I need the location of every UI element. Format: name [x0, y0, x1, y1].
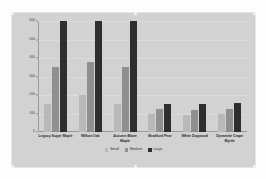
category-label: Dynamite Crape Myrtle: [213, 134, 247, 143]
bar-group: [183, 21, 206, 132]
bar[interactable]: [156, 109, 163, 132]
bar[interactable]: [95, 21, 102, 132]
y-axis-tick-label: 600: [29, 19, 35, 23]
y-axis-tick-label: 200: [29, 93, 35, 97]
resize-handle-bottom-center[interactable]: [134, 165, 137, 168]
bar-groups: [38, 21, 247, 132]
legend-label: Medium: [130, 148, 143, 152]
legend-swatch: [105, 148, 109, 152]
bar[interactable]: [226, 109, 233, 132]
category-label: Bradford Pear: [143, 134, 177, 143]
bar[interactable]: [52, 67, 59, 132]
chart-legend: SmallMediumLarge: [12, 148, 255, 152]
resize-handle-bottom-left[interactable]: [11, 165, 14, 168]
legend-item[interactable]: Medium: [125, 148, 143, 152]
y-axis-tick-label: 0: [33, 130, 35, 134]
y-axis-tick-label: 400: [29, 56, 35, 60]
category-label: Legacy Sugar Maple: [38, 134, 72, 143]
bar-group: [79, 21, 102, 132]
resize-handle-top-right[interactable]: [253, 12, 256, 15]
bar[interactable]: [60, 21, 67, 132]
legend-swatch: [148, 148, 152, 152]
bar[interactable]: [44, 104, 51, 132]
category-label: White Dogwood: [178, 134, 212, 143]
bar-group: [114, 21, 137, 132]
chart-card: 0100200300400500600 Legacy Sugar MapleWi…: [0, 0, 266, 179]
category-label: Willow Oak: [73, 134, 107, 143]
bar[interactable]: [87, 62, 94, 132]
category-label: Autumn Blaze Maple: [108, 134, 142, 143]
legend-label: Small: [110, 148, 119, 152]
bar[interactable]: [79, 95, 86, 132]
y-axis-tick-label: 300: [29, 75, 35, 79]
bar[interactable]: [130, 21, 137, 132]
resize-handle-bottom-right[interactable]: [253, 165, 256, 168]
bar[interactable]: [234, 103, 241, 132]
y-axis-tick-label: 500: [29, 38, 35, 42]
resize-handle-top-left[interactable]: [11, 12, 14, 15]
bar[interactable]: [199, 104, 206, 132]
legend-item[interactable]: Large: [148, 148, 162, 152]
bar[interactable]: [191, 110, 198, 132]
plot-area: 0100200300400500600: [38, 21, 247, 132]
resize-handle-top-center[interactable]: [134, 12, 137, 15]
legend-item[interactable]: Small: [105, 148, 119, 152]
legend-swatch: [125, 148, 129, 152]
bar[interactable]: [164, 104, 171, 132]
bar-group: [44, 21, 67, 132]
bar-group: [218, 21, 241, 132]
chart-panel: 0100200300400500600 Legacy Sugar MapleWi…: [11, 12, 256, 168]
bar[interactable]: [122, 67, 129, 132]
bar-group: [148, 21, 171, 132]
y-axis-tick-label: 100: [29, 112, 35, 116]
bar[interactable]: [114, 104, 121, 132]
legend-label: Large: [153, 148, 162, 152]
bar[interactable]: [148, 114, 155, 133]
bar[interactable]: [218, 114, 225, 132]
category-axis-labels: Legacy Sugar MapleWillow OakAutumn Blaze…: [38, 134, 247, 143]
bar[interactable]: [183, 115, 190, 132]
